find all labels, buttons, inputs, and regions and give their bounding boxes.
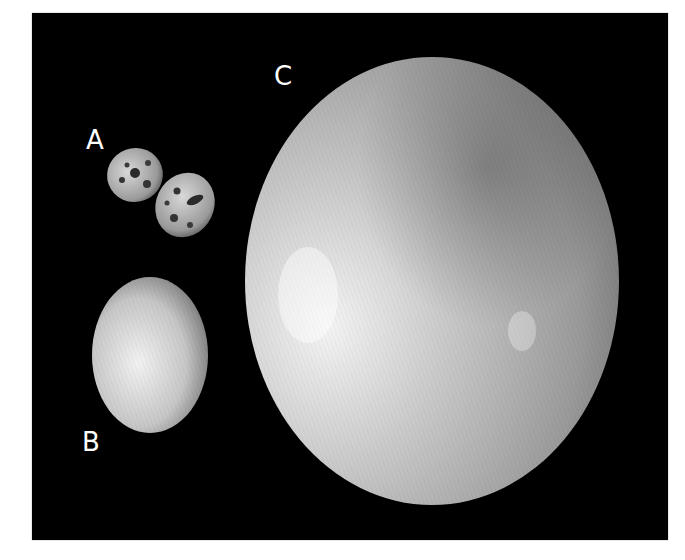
label-b: B: [82, 427, 100, 457]
egg-b-chicken: [92, 277, 208, 433]
egg-c-ostrich: [245, 57, 619, 505]
label-c: C: [274, 61, 292, 91]
egg-photo: A B C: [32, 13, 668, 540]
label-a: A: [86, 125, 104, 155]
egg-photo-svg: A B C: [32, 13, 668, 540]
